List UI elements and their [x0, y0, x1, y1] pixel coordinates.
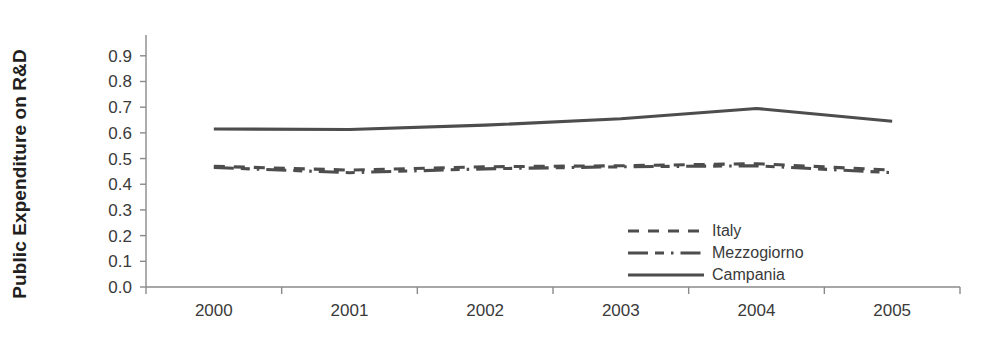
series-line-italy: [214, 164, 892, 170]
x-tick-label: 2004: [738, 301, 776, 320]
x-tick-label: 2005: [873, 301, 911, 320]
y-tick-label: 0.5: [108, 150, 132, 169]
y-tick-label: 0.8: [108, 72, 132, 91]
line-chart-plot: 0.00.10.20.30.40.50.60.70.80.9 200020012…: [0, 0, 997, 348]
x-tick-label: 2001: [331, 301, 369, 320]
y-tick-label: 0.0: [108, 278, 132, 297]
legend-label-mezzogiorno: Mezzogiorno: [712, 244, 804, 261]
chart-figure: Public Expenditure on R&D 0.00.10.20.30.…: [0, 0, 997, 348]
series-line-campania: [214, 108, 892, 129]
y-tick-label: 0.2: [108, 227, 132, 246]
y-axis-ticks: 0.00.10.20.30.40.50.60.70.80.9: [108, 47, 146, 297]
legend-label-italy: Italy: [712, 222, 741, 239]
y-tick-label: 0.3: [108, 201, 132, 220]
y-tick-label: 0.4: [108, 175, 132, 194]
x-tick-label: 2003: [602, 301, 640, 320]
legend-label-campania: Campania: [712, 266, 785, 283]
x-tick-label: 2000: [195, 301, 233, 320]
x-axis-ticks: 200020012002200320042005: [146, 287, 960, 320]
y-tick-label: 0.9: [108, 47, 132, 66]
y-tick-label: 0.1: [108, 252, 132, 271]
y-tick-label: 0.6: [108, 124, 132, 143]
chart-legend: ItalyMezzogiornoCampania: [628, 222, 804, 283]
y-tick-label: 0.7: [108, 98, 132, 117]
data-series-group: [214, 108, 892, 172]
x-tick-label: 2002: [466, 301, 504, 320]
